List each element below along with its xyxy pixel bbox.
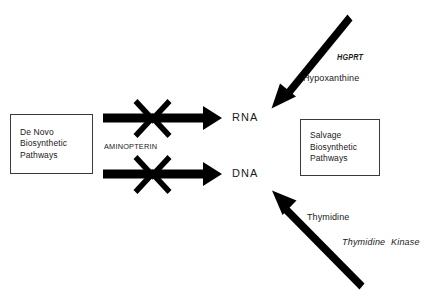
de-novo-pathways-box: De Novo Biosynthetic Pathways bbox=[10, 114, 93, 174]
hgprt-enzyme-label: HGPRT bbox=[337, 52, 363, 62]
block-x-marker-rna bbox=[134, 99, 172, 138]
thymidine-kinase-enzyme-label: Thymidine Kinase bbox=[342, 237, 420, 247]
thymidine-label: Thymidine bbox=[307, 212, 349, 222]
aminopterin-label: AMINOPTERIN bbox=[104, 142, 157, 151]
block-x-marker-dna bbox=[134, 155, 172, 194]
rna-label: RNA bbox=[232, 111, 259, 123]
arrow-denovo-to-rna bbox=[103, 106, 222, 130]
de-novo-line-2: Biosynthetic bbox=[20, 138, 92, 150]
arrow-denovo-to-dna bbox=[103, 162, 222, 186]
salvage-line-1: Salvage bbox=[310, 130, 379, 142]
de-novo-line-1: De Novo bbox=[20, 127, 92, 139]
hypoxanthine-label: Hypoxanthine bbox=[303, 73, 359, 83]
salvage-line-2: Biosynthetic bbox=[310, 142, 379, 154]
salvage-pathways-box: Salvage Biosynthetic Pathways bbox=[300, 119, 380, 176]
de-novo-line-3: Pathways bbox=[20, 150, 92, 162]
pathway-diagram: De Novo Biosynthetic Pathways Salvage Bi… bbox=[0, 0, 439, 297]
salvage-line-3: Pathways bbox=[310, 153, 379, 165]
dna-label: DNA bbox=[232, 167, 259, 179]
